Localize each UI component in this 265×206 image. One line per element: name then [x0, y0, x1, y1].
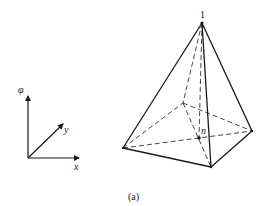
edge-apex-back — [183, 23, 202, 103]
base-left-node — [122, 147, 124, 149]
edge-apex-right — [202, 23, 252, 131]
coordinate-axes: φ x y — [18, 84, 79, 172]
base-right-node — [251, 130, 253, 132]
phi-axis-label: φ — [18, 84, 24, 95]
figure-canvas: φ x y 1 n (a) — [0, 0, 265, 206]
edge-apex-left — [123, 23, 202, 148]
pyramid-hidden-edges — [123, 23, 252, 167]
y-axis — [28, 124, 63, 158]
pyramid-nodes — [122, 21, 253, 168]
figure-caption: (a) — [128, 191, 139, 203]
interior-point-label: n — [201, 125, 206, 136]
apex-label: 1 — [200, 9, 205, 20]
edge-front-right — [211, 131, 252, 167]
edge-left-front — [123, 148, 211, 167]
interior-node-n — [197, 136, 200, 139]
x-axis-label: x — [73, 161, 79, 172]
edge-apex-n — [199, 23, 202, 138]
y-axis-label: y — [63, 124, 69, 135]
edge-apex-front — [202, 23, 211, 167]
apex-node — [200, 21, 203, 24]
base-front-node — [210, 166, 212, 168]
